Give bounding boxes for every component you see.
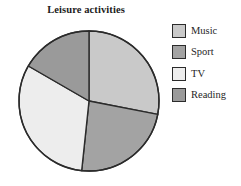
pie-slice-sport[interactable]: [82, 101, 158, 171]
pie-svg: [0, 0, 180, 186]
legend-item-music[interactable]: Music: [172, 20, 241, 42]
chart-legend: Music Sport TV Reading: [172, 20, 241, 106]
legend-label-sport: Sport: [191, 47, 214, 58]
legend-label-tv: TV: [191, 69, 205, 80]
pie-plot-area: [0, 0, 180, 186]
legend-label-music: Music: [191, 26, 217, 37]
legend-swatch-sport: [172, 45, 186, 59]
legend-label-reading: Reading: [191, 90, 226, 101]
legend-item-sport[interactable]: Sport: [172, 42, 241, 64]
pie-slice-group: [19, 31, 159, 171]
legend-item-tv[interactable]: TV: [172, 63, 241, 85]
pie-chart-figure: Leisure activities Music Sport TV Readin…: [0, 0, 241, 186]
legend-swatch-tv: [172, 67, 186, 81]
pie-slice-music[interactable]: [89, 31, 159, 114]
legend-item-reading[interactable]: Reading: [172, 85, 241, 107]
legend-swatch-music: [172, 24, 186, 38]
legend-swatch-reading: [172, 88, 186, 102]
